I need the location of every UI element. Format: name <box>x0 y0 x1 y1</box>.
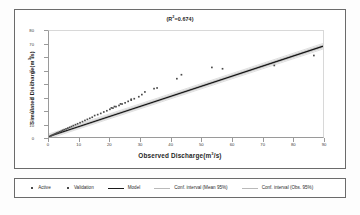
data-point-active <box>115 106 117 108</box>
x-tick-mark <box>201 138 202 142</box>
y-tick-label: 20 <box>14 109 34 114</box>
data-point-active <box>103 111 105 113</box>
data-point-active <box>62 130 64 132</box>
legend-item[interactable]: Active <box>15 186 51 191</box>
data-point-active <box>112 107 114 109</box>
legend-item-label: Conf. interval (Mean 95%) <box>174 186 227 191</box>
x-tick-mark <box>109 138 110 142</box>
x-tick-label: 90 <box>316 142 332 147</box>
plot-svg <box>49 31 323 137</box>
data-point-active <box>106 110 108 112</box>
data-point-active <box>127 101 129 103</box>
x-tick-mark <box>324 138 325 142</box>
x-tick-label: 80 <box>285 142 301 147</box>
data-point-validation <box>130 98 132 100</box>
data-point-validation <box>181 74 183 76</box>
y-tick-label: 40 <box>14 82 34 87</box>
data-point-active <box>121 103 123 105</box>
x-tick-label: 40 <box>163 142 179 147</box>
data-point-active <box>63 129 65 131</box>
data-point-validation <box>111 107 113 109</box>
legend-item[interactable]: Conf. interval (Mean 95%) <box>140 186 227 191</box>
legend-item-list: ActiveValidationModelConf. interval (Mea… <box>15 186 345 191</box>
legend-item[interactable]: Model <box>94 186 141 191</box>
data-point-active <box>124 102 126 104</box>
data-point-active <box>67 127 69 129</box>
confidence-band-upper <box>49 43 323 133</box>
data-point-active <box>71 126 73 128</box>
y-tick-label: 70 <box>14 41 34 46</box>
data-point-validation <box>153 88 155 90</box>
y-tick-label: 60 <box>14 55 34 60</box>
x-tick-mark <box>171 138 172 142</box>
data-point-active <box>100 113 102 115</box>
x-axis-label-suffix: /s) <box>214 152 222 159</box>
data-point-validation <box>141 94 143 96</box>
x-tick-label: 10 <box>71 142 87 147</box>
data-point-active <box>59 131 61 133</box>
model-line <box>49 46 323 136</box>
data-point-active <box>97 114 99 116</box>
x-tick-mark <box>263 138 264 142</box>
data-point-validation <box>313 55 315 57</box>
data-point-active <box>73 125 75 127</box>
data-point-validation <box>120 103 122 105</box>
x-tick-mark <box>232 138 233 142</box>
data-point-active <box>87 119 89 121</box>
data-point-active <box>79 122 81 124</box>
y-tick-label: 10 <box>14 122 34 127</box>
data-point-active <box>109 108 111 110</box>
x-tick-label: 50 <box>193 142 209 147</box>
screenshot-root: (R2=0.674) Simulated Discharge(m3/s) 010… <box>0 0 360 215</box>
data-point-active <box>91 116 93 118</box>
chart-frame: (R2=0.674) Simulated Discharge(m3/s) 010… <box>14 9 346 169</box>
chart-title-suffix: =0.674) <box>174 16 193 22</box>
plot-area <box>48 30 324 138</box>
x-axis-label: Observed Discharge(m3/s) <box>15 151 345 159</box>
y-tick-label: 80 <box>14 28 34 33</box>
data-point-active <box>60 130 62 132</box>
confidence-band-lower <box>49 48 323 137</box>
data-point-active <box>69 126 71 128</box>
legend-item[interactable]: Validation <box>51 186 94 191</box>
data-point-validation <box>211 67 213 69</box>
data-point-active <box>94 115 96 117</box>
legend-item-label: Conf. interval (Obs. 95%) <box>262 186 314 191</box>
y-tick-label: 50 <box>14 68 34 73</box>
x-tick-mark <box>48 138 49 142</box>
confidence-band-upper <box>49 45 323 135</box>
data-point-validation <box>144 91 146 93</box>
x-tick-mark <box>79 138 80 142</box>
legend-line-icon <box>108 188 124 189</box>
data-point-active <box>138 96 140 98</box>
data-point-active <box>77 123 79 125</box>
legend-item-label: Model <box>128 186 141 191</box>
y-tick-label: 30 <box>14 95 34 100</box>
x-tick-label: 20 <box>101 142 117 147</box>
data-point-active <box>84 120 86 122</box>
legend-line-icon <box>242 188 258 189</box>
data-point-active <box>118 105 120 107</box>
chart-title: (R2=0.674) <box>15 15 345 22</box>
data-point-active <box>133 98 135 100</box>
legend-marker-icon <box>31 187 33 189</box>
x-tick-mark <box>293 138 294 142</box>
data-point-validation <box>222 68 224 70</box>
x-axis-label-prefix: Observed Discharge(m <box>138 152 211 159</box>
data-point-active <box>65 128 67 130</box>
legend-item[interactable]: Conf. interval (Obs. 95%) <box>228 186 314 191</box>
legend-line-icon <box>154 188 170 189</box>
plot-canvas <box>49 31 323 137</box>
x-tick-label: 70 <box>255 142 271 147</box>
legend-item-label: Active <box>38 186 51 191</box>
x-tick-mark <box>140 138 141 142</box>
chart-legend: ActiveValidationModelConf. interval (Mea… <box>14 178 346 198</box>
data-point-active <box>57 132 59 134</box>
x-tick-label: 0 <box>40 142 56 147</box>
x-tick-label: 60 <box>224 142 240 147</box>
data-point-active <box>89 117 91 119</box>
y-tick-label: 0 <box>14 136 34 141</box>
data-point-active <box>82 121 84 123</box>
data-point-validation <box>273 65 275 67</box>
data-point-validation <box>176 78 178 80</box>
